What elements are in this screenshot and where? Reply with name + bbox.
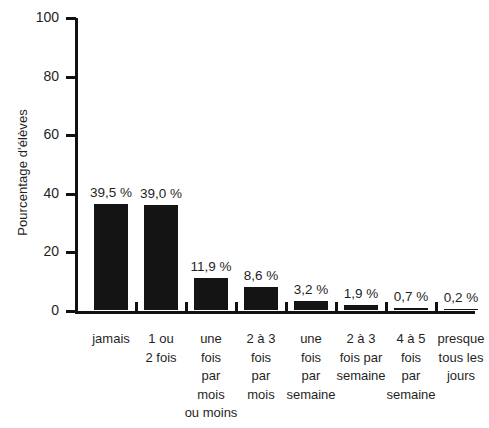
y-tick-label: 60 <box>17 127 59 141</box>
x-tick-mark <box>335 302 338 312</box>
bar <box>344 305 378 310</box>
x-tick-mark <box>285 302 288 312</box>
bar-value-label: 11,9 % <box>184 260 238 274</box>
x-category-label-line: presque <box>426 330 489 349</box>
y-tick-mark <box>66 310 76 313</box>
x-category-label: presquetous lesjours <box>426 330 489 386</box>
bar <box>294 301 328 310</box>
y-axis-title: Pourcentage d'élèves <box>15 88 30 258</box>
y-axis-line <box>75 18 78 314</box>
y-tick-label: 100 <box>17 10 59 24</box>
bar <box>244 287 278 310</box>
bar <box>94 204 128 310</box>
bar-value-label: 39,5 % <box>84 186 138 200</box>
x-category-label-line: ou moins <box>176 404 246 423</box>
y-tick-mark <box>66 76 76 79</box>
bar <box>144 205 178 310</box>
y-tick-mark <box>66 17 76 20</box>
x-tick-mark <box>235 302 238 312</box>
x-category-label-line: tous les <box>426 349 489 368</box>
x-tick-mark <box>185 302 188 312</box>
y-tick-mark <box>66 193 76 196</box>
y-tick-label: 80 <box>17 69 59 83</box>
bar-value-label: 0,7 % <box>384 290 438 304</box>
bar-value-label: 3,2 % <box>284 283 338 297</box>
bar-value-label: 8,6 % <box>234 269 288 283</box>
bar-value-label: 0,2 % <box>434 291 488 305</box>
y-tick-label: 40 <box>17 186 59 200</box>
bar <box>394 308 428 310</box>
bar <box>444 309 478 311</box>
x-tick-mark <box>135 302 138 312</box>
y-tick-label: 20 <box>17 244 59 258</box>
bar <box>194 278 228 310</box>
x-axis-category-labels: jamais1 ou2 foisunefoisparmoisou moins2 … <box>75 330 483 428</box>
plot-area: 020406080100 39,5 %39,0 %11,9 %8,6 %3,2 … <box>75 18 475 313</box>
x-category-label-line: jours <box>426 367 489 386</box>
y-tick-mark <box>66 134 76 137</box>
x-category-label-line: semaine <box>276 386 346 405</box>
x-category-label-line: semaine <box>376 386 446 405</box>
y-tick-mark <box>66 251 76 254</box>
bar-value-label: 39,0 % <box>134 187 188 201</box>
bar-value-label: 1,9 % <box>334 287 388 301</box>
y-tick-label: 0 <box>17 303 59 317</box>
